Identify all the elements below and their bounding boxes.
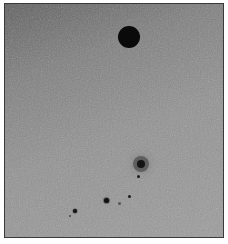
faint-particle-1 bbox=[118, 202, 121, 205]
small-particle-4 bbox=[73, 209, 77, 213]
small-particle-2 bbox=[104, 198, 109, 203]
faint-particle-2 bbox=[69, 215, 71, 217]
small-particle-3 bbox=[128, 195, 131, 198]
noise-texture bbox=[5, 4, 223, 237]
small-particle-1 bbox=[137, 175, 140, 178]
large-particle bbox=[118, 26, 140, 48]
micrograph-frame bbox=[4, 3, 224, 238]
halo-particle bbox=[137, 160, 145, 168]
